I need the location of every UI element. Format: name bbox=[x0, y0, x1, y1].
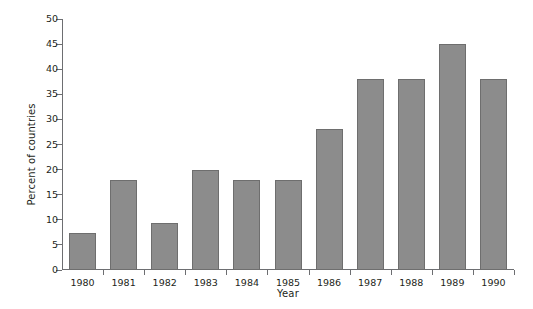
x-axis-tick-label: 1988 bbox=[391, 277, 432, 288]
bar bbox=[398, 79, 425, 270]
x-axis-tick-label: 1989 bbox=[432, 277, 473, 288]
x-axis-tick bbox=[144, 270, 145, 275]
x-axis-tick bbox=[473, 270, 474, 275]
x-axis-tick bbox=[103, 270, 104, 275]
x-axis-tick-label: 1981 bbox=[103, 277, 144, 288]
x-axis-tick bbox=[185, 270, 186, 275]
bar bbox=[480, 79, 507, 270]
x-axis-title: Year bbox=[62, 288, 514, 299]
x-axis-tick bbox=[350, 270, 351, 275]
x-axis-tick-label: 1986 bbox=[309, 277, 350, 288]
x-axis-tick-label: 1987 bbox=[350, 277, 391, 288]
bar-chart-figure: Percent of countries 0510152025303540455… bbox=[0, 0, 533, 309]
y-axis-line bbox=[62, 19, 63, 270]
plot-area: 05101520253035404550 1980198119821983198… bbox=[62, 19, 514, 270]
bar bbox=[151, 223, 178, 270]
bar bbox=[69, 233, 96, 270]
x-axis-tick bbox=[309, 270, 310, 275]
x-axis-tick-label: 1980 bbox=[62, 277, 103, 288]
bar bbox=[192, 170, 219, 270]
x-axis-tick-label: 1982 bbox=[144, 277, 185, 288]
x-axis-tick bbox=[267, 270, 268, 275]
y-axis-title: Percent of countries bbox=[22, 0, 40, 309]
x-axis-tick bbox=[514, 270, 515, 275]
x-axis-tick-label: 1985 bbox=[267, 277, 308, 288]
bar bbox=[110, 180, 137, 270]
y-axis-tick-label: 40 bbox=[46, 62, 58, 75]
y-axis-tick-label: 25 bbox=[46, 138, 58, 151]
bar bbox=[316, 129, 343, 270]
bar bbox=[357, 79, 384, 270]
bar bbox=[233, 180, 260, 270]
y-axis-tick-label: 0 bbox=[52, 263, 58, 276]
x-axis-tick bbox=[391, 270, 392, 275]
x-axis-tick bbox=[226, 270, 227, 275]
y-axis-tick-label: 10 bbox=[46, 213, 58, 226]
y-axis-tick-label: 5 bbox=[52, 238, 58, 251]
y-axis-tick-label: 35 bbox=[46, 87, 58, 100]
y-axis-tick-label: 30 bbox=[46, 112, 58, 125]
x-axis-tick-label: 1990 bbox=[473, 277, 514, 288]
x-axis-tick-label: 1983 bbox=[185, 277, 226, 288]
bar bbox=[439, 44, 466, 270]
y-axis-tick-label: 20 bbox=[46, 163, 58, 176]
bar bbox=[275, 180, 302, 270]
y-axis-tick-label: 15 bbox=[46, 188, 58, 201]
y-axis-tick-label: 50 bbox=[46, 12, 58, 25]
y-axis-tick-label: 45 bbox=[46, 37, 58, 50]
x-axis-tick-label: 1984 bbox=[226, 277, 267, 288]
x-axis-tick bbox=[432, 270, 433, 275]
